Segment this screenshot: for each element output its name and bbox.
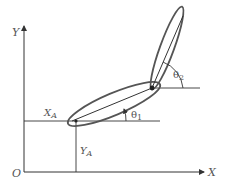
x-axis-label: X (207, 166, 217, 179)
origin-label: O (12, 167, 21, 180)
xa-label: XA (43, 107, 57, 120)
link1 (64, 74, 165, 133)
theta1-label: θ1 (131, 109, 142, 122)
diagram-canvas: Y X O XA YA θ1 θ2 (0, 0, 227, 188)
joint-point (150, 86, 155, 91)
arm-diagram: Y X O XA YA θ1 θ2 (0, 0, 227, 188)
ya-label: YA (80, 145, 93, 158)
y-axis-label: Y (12, 26, 21, 39)
theta2-label: θ2 (173, 69, 184, 82)
point-a (74, 119, 77, 122)
